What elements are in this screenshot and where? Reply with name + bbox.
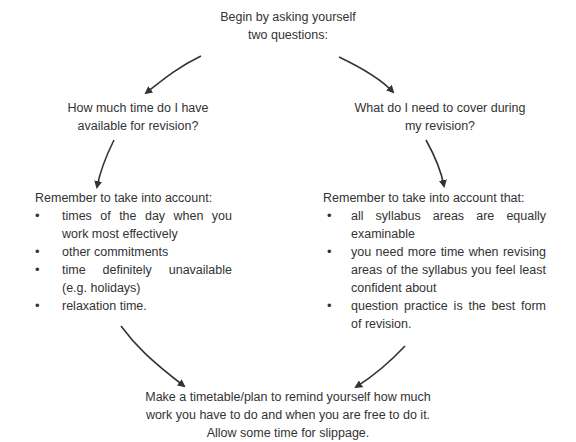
arrow-right-considerations-to-outcome bbox=[356, 346, 405, 387]
question-right-line-2: my revision? bbox=[320, 117, 560, 135]
considerations-left-list: •times of the day when you work most eff… bbox=[35, 207, 232, 315]
outcome-node: Make a timetable/plan to remind yourself… bbox=[98, 388, 478, 442]
start-line-1: Begin by asking yourself bbox=[188, 8, 388, 26]
list-item: •all syllabus areas are equally examinab… bbox=[327, 207, 546, 243]
considerations-left: Remember to take into account: •times of… bbox=[35, 189, 232, 315]
arrow-left-question-to-considerations bbox=[97, 140, 114, 187]
considerations-right-heading: Remember to take into account that: bbox=[323, 189, 546, 207]
start-node: Begin by asking yourself two questions: bbox=[188, 8, 388, 44]
start-line-2: two questions: bbox=[188, 26, 388, 44]
arrow-start-to-left-question bbox=[146, 56, 201, 93]
considerations-left-heading: Remember to take into account: bbox=[35, 189, 232, 207]
list-item: •question practice is the best form of r… bbox=[327, 297, 546, 333]
bullet-icon: • bbox=[35, 243, 40, 261]
bullet-icon: • bbox=[327, 297, 332, 315]
list-item: •you need more time when revising areas … bbox=[327, 243, 546, 297]
considerations-right-list: •all syllabus areas are equally examinab… bbox=[327, 207, 546, 333]
list-item: •other commitments bbox=[35, 243, 232, 261]
considerations-right: Remember to take into account that: •all… bbox=[323, 189, 546, 333]
question-right-line-1: What do I need to cover during bbox=[320, 99, 560, 117]
bullet-icon: • bbox=[35, 207, 40, 225]
bullet-icon: • bbox=[327, 207, 332, 225]
list-item: •times of the day when you work most eff… bbox=[35, 207, 232, 243]
bullet-icon: • bbox=[327, 243, 332, 261]
arrow-left-considerations-to-outcome bbox=[121, 326, 184, 386]
bullet-icon: • bbox=[35, 261, 40, 279]
list-item: •relaxation time. bbox=[35, 297, 232, 315]
arrow-start-to-right-question bbox=[339, 57, 393, 92]
outcome-line-1: Make a timetable/plan to remind yourself… bbox=[98, 388, 478, 406]
bullet-icon: • bbox=[35, 297, 40, 315]
outcome-line-3: Allow some time for slippage. bbox=[98, 424, 478, 442]
list-item: •time definitely unavailable (e.g. holid… bbox=[35, 261, 232, 297]
question-time-available: How much time do I have available for re… bbox=[38, 99, 238, 135]
outcome-line-2: work you have to do and when you are fre… bbox=[98, 406, 478, 424]
question-what-to-cover: What do I need to cover during my revisi… bbox=[320, 99, 560, 135]
arrow-right-question-to-considerations bbox=[426, 140, 444, 186]
question-left-line-1: How much time do I have bbox=[38, 99, 238, 117]
question-left-line-2: available for revision? bbox=[38, 117, 238, 135]
